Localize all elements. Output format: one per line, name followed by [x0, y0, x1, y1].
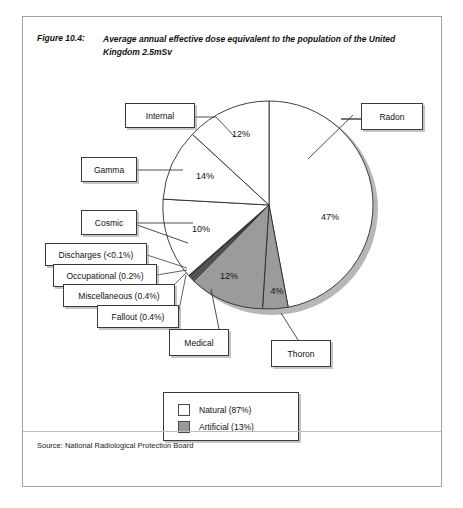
- slice-pct-gamma: 14%: [196, 171, 214, 181]
- source-note: Source: National Radiological Protection…: [37, 441, 193, 450]
- slice-pct-thoron: 4%: [270, 286, 283, 296]
- callout-medical[interactable]: Medical: [169, 329, 229, 356]
- slice-pct-cosmic: 10%: [192, 224, 210, 234]
- callout-cosmic[interactable]: Cosmic: [81, 210, 137, 235]
- callout-fallout[interactable]: Fallout (0.4%): [97, 305, 179, 328]
- leader-thoron: [281, 313, 300, 343]
- legend: Natural (87%) Artificial (13%): [163, 392, 299, 441]
- figure-frame: Figure 10.4: Average annual effective do…: [22, 16, 442, 487]
- slice-pct-internal: 12%: [232, 129, 250, 139]
- pie-slice-radon: [269, 101, 373, 307]
- leader-occupational: [157, 270, 187, 275]
- slice-pct-medical: 12%: [220, 271, 238, 281]
- callout-miscellaneous[interactable]: Miscellaneous (0.4%): [63, 284, 175, 307]
- callout-gamma[interactable]: Gamma: [81, 157, 137, 182]
- slice-pct-radon: 47%: [321, 212, 339, 222]
- callout-thoron[interactable]: Thoron: [271, 340, 331, 367]
- leader-fallout: [178, 275, 186, 315]
- legend-item-natural: Natural (87%): [178, 403, 251, 417]
- legend-swatch-natural: [178, 404, 190, 416]
- callout-radon[interactable]: Radon: [361, 103, 423, 130]
- source-divider: [23, 431, 441, 432]
- legend-label-natural: Natural (87%): [199, 405, 251, 415]
- callout-discharges[interactable]: Discharges (<0.1%): [45, 243, 147, 266]
- callout-internal[interactable]: Internal: [125, 103, 195, 128]
